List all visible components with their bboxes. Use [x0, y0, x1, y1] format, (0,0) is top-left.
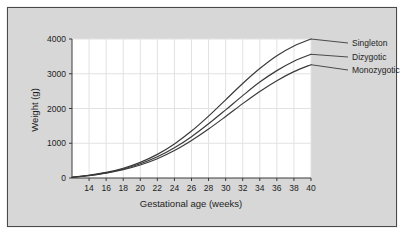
x-tick-label: 24 — [170, 183, 180, 193]
y-axis-title: Weight (g) — [29, 88, 40, 132]
leader-line-monozygotic — [311, 65, 348, 70]
series-label-singleton: Singleton — [352, 38, 388, 48]
x-tick-label: 30 — [221, 183, 231, 193]
x-tick-label: 22 — [153, 183, 163, 193]
y-tick-label: 3000 — [47, 69, 66, 79]
figure-container: 01000200030004000 1416182022242628303234… — [0, 0, 404, 234]
x-tick-label: 28 — [204, 183, 214, 193]
y-tick-label: 1000 — [47, 138, 66, 148]
x-tick-label: 32 — [238, 183, 248, 193]
y-tick-label: 0 — [61, 173, 66, 183]
series-leader-lines — [311, 39, 348, 70]
y-axis-ticks: 01000200030004000 — [47, 34, 72, 183]
growth-chart: 01000200030004000 1416182022242628303234… — [0, 0, 404, 234]
y-tick-label: 4000 — [47, 34, 66, 44]
x-tick-label: 14 — [84, 183, 94, 193]
x-axis-title: Gestational age (weeks) — [140, 198, 242, 209]
x-axis-ticks: 1416182022242628303234363840 — [84, 178, 316, 193]
x-tick-label: 18 — [118, 183, 128, 193]
x-tick-label: 40 — [306, 183, 316, 193]
series-labels: SingletonDizygoticMonozygotic — [352, 38, 400, 75]
series-label-monozygotic: Monozygotic — [352, 65, 400, 75]
leader-line-singleton — [311, 39, 348, 43]
y-tick-label: 2000 — [47, 104, 66, 114]
x-tick-label: 20 — [136, 183, 146, 193]
series-label-dizygotic: Dizygotic — [352, 52, 387, 62]
x-tick-label: 36 — [272, 183, 282, 193]
x-tick-label: 16 — [101, 183, 111, 193]
leader-line-dizygotic — [311, 54, 348, 57]
x-tick-label: 38 — [289, 183, 299, 193]
x-tick-label: 34 — [255, 183, 265, 193]
x-tick-label: 26 — [187, 183, 197, 193]
